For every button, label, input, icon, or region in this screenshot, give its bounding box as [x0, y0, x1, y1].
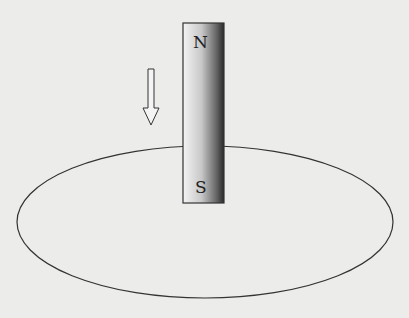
magnet-loop-diagram: N S: [0, 0, 409, 318]
north-pole-label: N: [193, 32, 208, 52]
bar-magnet: N S: [183, 23, 224, 203]
hollow-down-arrow-icon: [143, 69, 159, 125]
south-pole-label: S: [195, 177, 207, 197]
